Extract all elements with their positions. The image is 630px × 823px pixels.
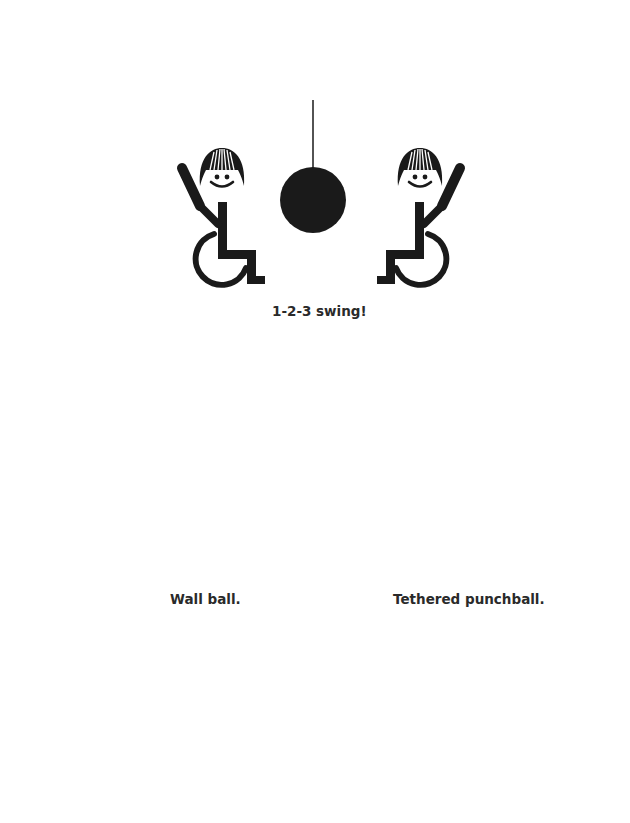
figure-right-with-bat — [377, 148, 460, 285]
page-illustrations — [0, 0, 630, 823]
caption-swing: 1-2-3 swing! — [272, 303, 367, 319]
hanging-ball — [280, 167, 346, 233]
caption-tethered-punchball: Tethered punchball. — [393, 591, 545, 607]
illustration-swing — [182, 100, 460, 285]
figure-left-with-bat — [182, 148, 265, 285]
caption-wall-ball: Wall ball. — [170, 591, 241, 607]
